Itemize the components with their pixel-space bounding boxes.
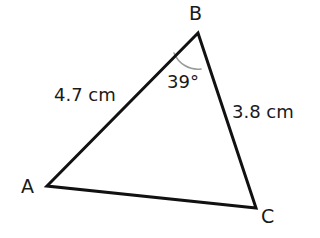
vertex-label-b: B: [189, 4, 202, 23]
angle-measure-label-b: 39°: [167, 73, 199, 91]
side-length-label-ab: 4.7 cm: [54, 86, 116, 104]
vertex-label-c: C: [261, 207, 274, 226]
vertex-label-a: A: [21, 177, 34, 196]
side-length-label-bc: 3.8 cm: [232, 103, 294, 121]
